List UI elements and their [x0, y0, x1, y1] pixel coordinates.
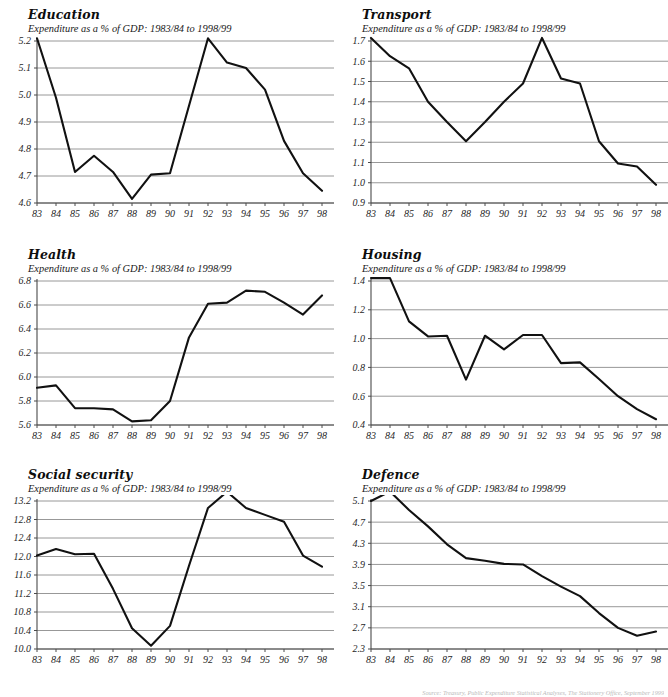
x-axis-tick-label: 95 [260, 208, 270, 219]
chart-title-transport: Transport [362, 8, 668, 22]
y-axis-tick-label: 1.2 [353, 304, 366, 315]
x-axis-tick-label: 98 [651, 430, 661, 441]
x-axis-tick-label: 95 [594, 208, 604, 219]
line-chart-health: 5.65.86.06.26.46.66.88384858687888990919… [0, 275, 334, 447]
plot-area-housing: 0.40.60.81.01.21.48384858687888990919293… [334, 275, 668, 447]
line-chart-transport: 0.91.01.11.21.31.41.51.61.78384858687888… [334, 35, 668, 225]
y-axis-tick-label: 5.1 [19, 62, 32, 73]
x-axis-tick-label: 88 [127, 430, 137, 441]
chart-title-defence: Defence [362, 468, 668, 482]
x-axis-tick-label: 97 [298, 208, 309, 219]
y-axis-tick-label: 1.5 [353, 76, 366, 87]
x-axis-tick-label: 87 [108, 430, 119, 441]
x-axis-tick-label: 98 [317, 654, 327, 665]
x-axis-tick-label: 91 [518, 430, 528, 441]
y-axis-tick-label: 1.7 [353, 35, 367, 46]
x-axis-tick-label: 85 [404, 430, 414, 441]
chart-header-housing: Housing Expenditure as a % of GDP: 1983/… [334, 240, 668, 275]
x-axis-tick-label: 93 [222, 654, 232, 665]
x-axis-tick-label: 84 [51, 654, 61, 665]
x-axis-tick-label: 91 [518, 208, 528, 219]
data-series-line [37, 291, 322, 422]
x-axis-tick-label: 85 [404, 208, 414, 219]
y-axis-tick-label: 0.9 [353, 197, 366, 208]
y-axis-tick-label: 12.0 [14, 551, 32, 562]
x-axis-tick-label: 93 [556, 654, 566, 665]
y-axis-tick-label: 3.5 [352, 580, 366, 591]
x-axis-tick-label: 85 [70, 430, 80, 441]
x-axis-tick-label: 98 [317, 208, 327, 219]
x-axis-tick-label: 84 [51, 208, 61, 219]
chart-title-education: Education [28, 8, 334, 22]
x-axis-tick-label: 96 [279, 430, 289, 441]
y-axis-tick-label: 4.6 [19, 197, 32, 208]
x-axis-tick-label: 87 [442, 654, 453, 665]
line-chart-defence: 2.32.73.13.53.94.34.75.18384858687888990… [334, 495, 668, 671]
y-axis-tick-label: 13.2 [14, 495, 32, 506]
x-axis-tick-label: 92 [203, 208, 213, 219]
y-axis-tick-label: 4.3 [353, 538, 366, 549]
x-axis-tick-label: 87 [108, 654, 119, 665]
chart-panel-housing: Housing Expenditure as a % of GDP: 1983/… [334, 240, 668, 460]
y-axis-tick-label: 11.6 [14, 569, 31, 580]
x-axis-tick-label: 85 [404, 654, 414, 665]
x-axis-tick-label: 94 [241, 430, 251, 441]
chart-title-health: Health [28, 248, 334, 262]
chart-header-education: Education Expenditure as a % of GDP: 198… [0, 0, 334, 35]
chart-panel-social-security: Social security Expenditure as a % of GD… [0, 460, 334, 682]
y-axis-tick-label: 10.8 [14, 606, 32, 617]
x-axis-tick-label: 91 [518, 654, 528, 665]
plot-area-transport: 0.91.01.11.21.31.41.51.61.78384858687888… [334, 35, 668, 225]
x-axis-tick-label: 96 [279, 208, 289, 219]
y-axis-tick-label: 6.4 [19, 323, 32, 334]
x-axis-tick-label: 83 [32, 654, 42, 665]
y-axis-tick-label: 1.4 [353, 275, 366, 286]
chart-panel-health: Health Expenditure as a % of GDP: 1983/8… [0, 240, 334, 460]
x-axis-tick-label: 92 [537, 208, 547, 219]
chart-subtitle-social-security: Expenditure as a % of GDP: 1983/84 to 19… [28, 482, 334, 495]
data-series-line [37, 495, 322, 646]
y-axis-tick-label: 0.6 [353, 391, 366, 402]
y-axis-tick-label: 1.0 [353, 333, 366, 344]
x-axis-tick-label: 86 [423, 654, 433, 665]
x-axis-tick-label: 96 [279, 654, 289, 665]
x-axis-tick-label: 88 [461, 654, 471, 665]
charts-sheet: Education Expenditure as a % of GDP: 198… [0, 0, 668, 697]
chart-panel-transport: Transport Expenditure as a % of GDP: 198… [334, 0, 668, 240]
x-axis-tick-label: 94 [241, 208, 251, 219]
x-axis-tick-label: 90 [499, 208, 509, 219]
y-axis-tick-label: 4.9 [19, 116, 32, 127]
y-axis-tick-label: 12.4 [14, 532, 32, 543]
y-axis-tick-label: 4.7 [353, 517, 367, 528]
chart-panel-education: Education Expenditure as a % of GDP: 198… [0, 0, 334, 240]
y-axis-tick-label: 1.0 [353, 177, 366, 188]
line-chart-education: 4.64.74.84.95.05.15.28384858687888990919… [0, 35, 334, 225]
y-axis-tick-label: 5.8 [19, 395, 32, 406]
x-axis-tick-label: 92 [203, 430, 213, 441]
plot-area-education: 4.64.74.84.95.05.15.28384858687888990919… [0, 35, 334, 225]
x-axis-tick-label: 90 [499, 654, 509, 665]
data-series-line [371, 495, 656, 636]
chart-subtitle-health: Expenditure as a % of GDP: 1983/84 to 19… [28, 262, 334, 275]
y-axis-tick-label: 4.7 [19, 170, 33, 181]
x-axis-tick-label: 91 [184, 430, 194, 441]
x-axis-tick-label: 83 [32, 208, 42, 219]
data-series-line [37, 38, 322, 199]
x-axis-tick-label: 96 [613, 208, 623, 219]
y-axis-tick-label: 2.3 [353, 643, 366, 654]
x-axis-tick-label: 98 [317, 430, 327, 441]
x-axis-tick-label: 89 [146, 208, 156, 219]
x-axis-tick-label: 83 [366, 654, 376, 665]
x-axis-tick-label: 90 [165, 654, 175, 665]
x-axis-tick-label: 86 [89, 654, 99, 665]
y-axis-tick-label: 1.6 [353, 56, 366, 67]
y-axis-tick-label: 3.9 [352, 559, 366, 570]
x-axis-tick-label: 90 [499, 430, 509, 441]
y-axis-tick-label: 0.4 [353, 419, 366, 430]
x-axis-tick-label: 86 [423, 430, 433, 441]
y-axis-tick-label: 6.2 [19, 347, 32, 358]
chart-header-social-security: Social security Expenditure as a % of GD… [0, 460, 334, 495]
x-axis-tick-label: 94 [575, 654, 585, 665]
x-axis-tick-label: 97 [632, 430, 643, 441]
x-axis-tick-label: 96 [613, 654, 623, 665]
